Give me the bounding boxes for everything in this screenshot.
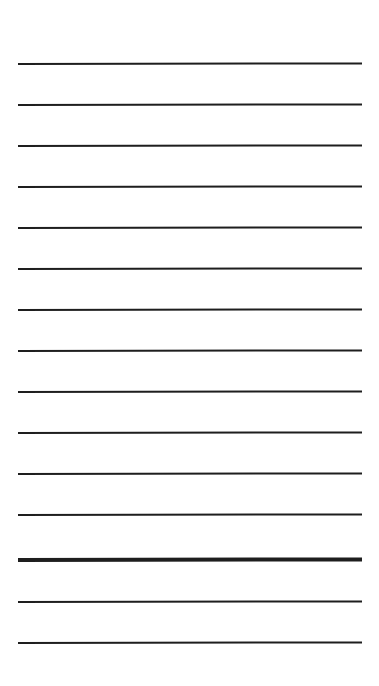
rule-line	[18, 600, 362, 603]
rule-line	[18, 472, 362, 475]
rule-line	[18, 349, 362, 352]
rule-line	[18, 267, 362, 270]
rule-line	[18, 103, 362, 106]
rule-line	[18, 185, 362, 188]
rule-line	[18, 513, 362, 516]
rule-line	[18, 308, 362, 311]
rule-line	[18, 641, 362, 644]
rule-line	[18, 144, 362, 147]
rule-line	[18, 431, 362, 434]
rule-line	[18, 390, 362, 393]
rule-line	[18, 62, 362, 65]
rule-line	[18, 226, 362, 229]
thick-rule-line	[18, 557, 362, 562]
